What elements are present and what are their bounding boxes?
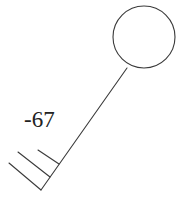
value-label: -67: [24, 107, 55, 132]
wind-barb-3: [38, 150, 59, 164]
station-circle: [113, 6, 175, 68]
wind-barb-1: [9, 163, 41, 190]
station-model: -67: [0, 0, 188, 210]
wind-barb-2: [18, 152, 50, 177]
